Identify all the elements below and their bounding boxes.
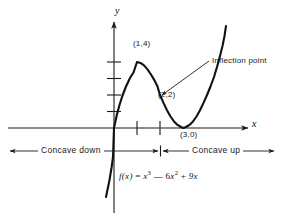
concave-up-label: Concave up xyxy=(189,146,243,155)
local-min-point-label: (3,0) xyxy=(180,131,197,139)
function-formula: f(x) = x3 — 6x2 + 9x xyxy=(119,172,198,181)
formula-term2-exp: 2 xyxy=(175,169,179,176)
formula-plus: + xyxy=(181,171,186,181)
formula-term3: 9x xyxy=(189,171,198,181)
formula-lhs: f(x) xyxy=(119,171,133,181)
concave-down-label: Concave down xyxy=(38,146,104,155)
y-axis-label: y xyxy=(115,6,120,16)
formula-minus: — xyxy=(154,171,163,181)
inflection-point-label: (2,2) xyxy=(158,91,175,99)
cubic-concavity-figure: y x (1,4) (2,2) (3,0) Inflection point C… xyxy=(0,0,284,220)
formula-term1-exp: 3 xyxy=(148,169,152,176)
figure-canvas xyxy=(0,0,284,220)
local-max-point-label: (1,4) xyxy=(133,40,150,48)
x-axis-label: x xyxy=(252,119,257,129)
inflection-point-callout: Inflection point xyxy=(212,57,267,65)
formula-equals: = xyxy=(135,171,140,181)
